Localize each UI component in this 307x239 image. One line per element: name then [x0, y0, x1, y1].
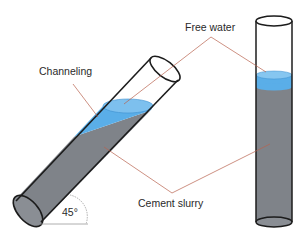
vertical-water-boundary — [256, 84, 292, 91]
vertical-tube-top — [256, 16, 292, 26]
vertical-tube — [256, 16, 292, 227]
leader-free-water — [124, 37, 266, 104]
vertical-slurry — [256, 84, 292, 222]
label-free-water: Free water — [185, 22, 235, 33]
label-cement-slurry: Cement slurry — [138, 198, 203, 209]
leader-channeling — [73, 84, 98, 117]
tilted-tube-top — [146, 52, 184, 87]
vertical-tube-bottom — [256, 217, 292, 227]
vertical-water-surface — [256, 71, 292, 79]
label-channeling: Channeling — [39, 66, 92, 77]
tilted-tube — [0, 52, 190, 239]
leader-cement-slurry — [104, 144, 270, 193]
label-angle: 45° — [62, 207, 78, 218]
